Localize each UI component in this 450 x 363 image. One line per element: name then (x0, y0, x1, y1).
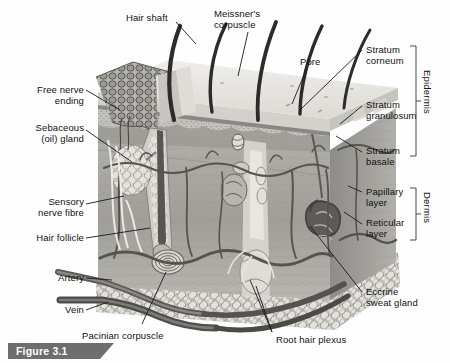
label-stratum-basale: Stratum basale (366, 145, 400, 167)
figure-caption-banner: Figure 3.1 (8, 343, 100, 359)
label-hair-shaft: Hair shaft (126, 12, 168, 23)
label-eccrine-sweat-gland: Eccrine sweat gland (366, 286, 418, 308)
figure-caption-text: Figure 3.1 (8, 345, 68, 357)
label-hair-follicle: Hair follicle (4, 232, 84, 243)
figure-caption-banner-tail (100, 343, 114, 359)
label-vein: Vein (4, 304, 84, 315)
label-pacinian-corpuscle: Pacinian corpuscle (82, 330, 164, 341)
meissners-corpuscle-structure (232, 134, 244, 150)
figure-canvas: Free nerve ending Sebaceous (oil) gland … (0, 0, 450, 363)
bracket-label-epidermis: Epidermis (422, 70, 433, 114)
label-reticular-layer: Reticular layer (366, 217, 404, 239)
label-stratum-granulosum: Stratum granulosum (366, 99, 417, 121)
label-stratum-corneum: Stratum corneum (366, 44, 404, 66)
bracket-dermis (410, 188, 421, 240)
annotation-brackets (410, 46, 421, 240)
label-meissners-corpuscle: Meissner's corpuscle (214, 8, 260, 30)
label-sebaceous-oil-gland: Sebaceous (oil) gland (4, 122, 84, 144)
label-artery: Artery (4, 272, 84, 283)
label-root-hair-plexus: Root hair plexus (276, 334, 346, 345)
label-free-nerve-ending: Free nerve ending (8, 84, 84, 106)
label-pore: Pore (300, 56, 320, 67)
label-papillary-layer: Papillary layer (366, 186, 403, 208)
bracket-label-dermis: Dermis (422, 192, 433, 223)
label-sensory-nerve-fibre: Sensory nerve fibre (4, 196, 84, 218)
